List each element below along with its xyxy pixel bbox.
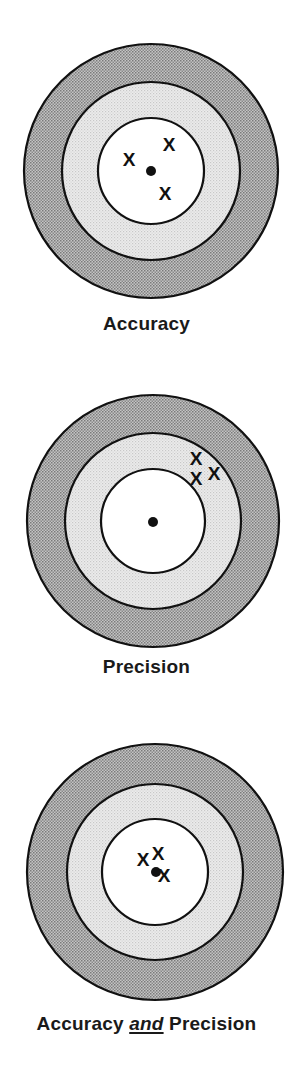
label-precision: Precision: [0, 656, 293, 678]
targets-diagram: XXXXXXXXX: [0, 0, 293, 1078]
target-accuracy-and-precision: XXX: [27, 744, 283, 1000]
hit-mark: X: [159, 183, 172, 204]
bullseye-dot: [148, 517, 158, 527]
hit-mark: X: [163, 134, 176, 155]
label-accuracy: Accuracy: [0, 313, 293, 335]
hit-mark: X: [152, 843, 165, 864]
target-precision: XXX: [27, 395, 279, 647]
hit-mark: X: [208, 463, 221, 484]
label-part-accuracy: Accuracy: [37, 1013, 130, 1034]
hit-mark: X: [158, 865, 171, 886]
hit-mark: X: [137, 849, 150, 870]
label-part-precision: Precision: [164, 1013, 257, 1034]
hit-mark: X: [123, 149, 136, 170]
hit-mark: X: [190, 468, 203, 489]
label-part-and: and: [129, 1013, 163, 1034]
bullseye-dot: [146, 166, 156, 176]
hit-mark: X: [190, 448, 203, 469]
target-accuracy: XXX: [24, 44, 278, 298]
label-accuracy-and-precision: Accuracy and Precision: [0, 1013, 293, 1035]
